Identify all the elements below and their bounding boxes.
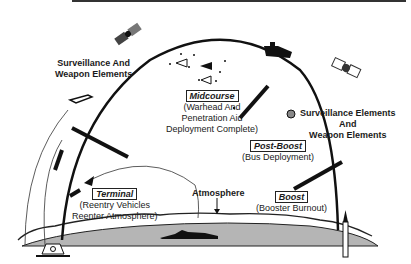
- phase-desc: (Bus Deployment): [242, 152, 314, 163]
- label-surveillance-right: Surveillance Elements And Weapon Element…: [300, 108, 396, 141]
- phase-desc: (Warhead And: [166, 102, 258, 113]
- phase-post-boost: Post-Boost (Bus Deployment): [242, 140, 314, 163]
- satellite-left-icon: [114, 23, 142, 46]
- label-surveillance-left: Surveillance And Weapon Elements: [55, 58, 132, 80]
- phase-desc: Penetration Aid: [166, 113, 258, 124]
- label-line: Surveillance Elements: [300, 108, 396, 119]
- phase-title: Post-Boost: [250, 140, 306, 152]
- warhead-bus-icon: [200, 62, 212, 70]
- phase-title: Boost: [275, 191, 309, 203]
- surveillance-marker-icon: [287, 110, 295, 118]
- terminal-arrow-icon: [84, 176, 94, 186]
- label-line: Surveillance And: [55, 58, 132, 69]
- label-atmosphere: Atmosphere: [192, 188, 245, 199]
- label-line: And: [300, 119, 396, 130]
- label-line: Weapon Elements: [300, 130, 396, 141]
- missile-launcher-icon: [343, 210, 348, 257]
- phase-desc: Deployment Complete): [166, 124, 258, 135]
- phase-desc: Reenter Atmosphere): [72, 211, 158, 222]
- satellite-right-icon: [332, 58, 361, 78]
- phase-midcourse: Midcourse (Warhead And Penetration Aid D…: [166, 90, 258, 135]
- reentry-vehicle-icon: [176, 59, 187, 67]
- phase-title: Midcourse: [186, 90, 239, 102]
- phase-boost: Boost (Booster Burnout): [256, 191, 327, 214]
- phase-desc: (Booster Burnout): [256, 203, 327, 214]
- reentry-vehicle-icon: [201, 76, 211, 84]
- phase-title: Terminal: [92, 188, 137, 200]
- reentry-vehicle-left: [55, 150, 62, 170]
- space-platform-icon: [264, 42, 292, 58]
- interceptor-missile-icon: [70, 95, 92, 103]
- label-line: Weapon Elements: [55, 69, 132, 80]
- phase-desc: (Reentry Vehicles: [72, 200, 158, 211]
- phase-terminal: Terminal (Reentry Vehicles Reenter Atmos…: [72, 188, 158, 222]
